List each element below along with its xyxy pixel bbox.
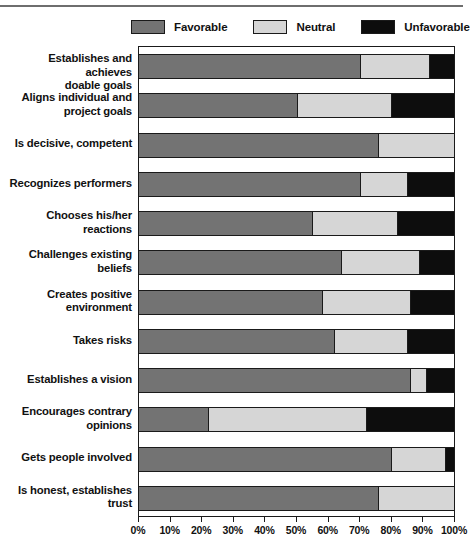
chart-row	[139, 126, 454, 165]
bar-segment-favorable	[139, 173, 360, 196]
category-label: Establishes and achievesdoable goals	[0, 52, 132, 93]
x-axis-tick	[233, 517, 234, 522]
bar-segment-favorable	[139, 408, 208, 431]
x-axis-tick-label: 20%	[191, 524, 211, 536]
chart-row	[139, 283, 454, 322]
x-axis-tick-label: 70%	[349, 524, 369, 536]
category-label-line: opinions	[0, 419, 132, 433]
category-label-line: Gets people involved	[0, 451, 132, 465]
category-label-line: Takes risks	[0, 334, 132, 348]
x-axis-tick-label: 100%	[441, 524, 467, 536]
bar-segment-favorable	[139, 330, 334, 353]
stacked-bar	[139, 290, 454, 315]
bar-segment-neutral	[297, 94, 392, 117]
bar-segment-favorable	[139, 94, 297, 117]
category-label-line: Is decisive, competent	[0, 137, 132, 151]
chart-row	[139, 400, 454, 439]
bar-segment-neutral	[341, 251, 420, 274]
category-label-line: reactions	[0, 223, 132, 237]
chart-row	[139, 440, 454, 479]
category-label-line: Aligns individual and	[0, 91, 132, 105]
chart-row	[139, 47, 454, 86]
bar-segment-neutral	[360, 173, 407, 196]
legend-swatch-favorable-icon	[131, 20, 165, 34]
x-axis-tick-label: 0%	[131, 524, 146, 536]
category-label-line: trust	[0, 497, 132, 511]
bar-segment-favorable	[139, 55, 360, 78]
bar-segment-neutral	[312, 212, 397, 235]
category-label-line: beliefs	[0, 262, 132, 276]
legend-item-favorable: Favorable	[131, 20, 227, 34]
chart-row	[139, 243, 454, 282]
x-axis-tick	[359, 517, 360, 522]
bar-segment-favorable	[139, 134, 378, 157]
x-axis-tick	[328, 517, 329, 522]
stacked-bar	[139, 329, 454, 354]
bar-segment-unfavorable	[410, 291, 454, 314]
category-label: Gets people involved	[0, 451, 132, 465]
legend-label-favorable: Favorable	[174, 21, 227, 33]
chart-row	[139, 165, 454, 204]
bar-segment-neutral	[378, 487, 454, 510]
bar-segment-neutral	[208, 408, 366, 431]
x-axis-ticks	[138, 517, 455, 522]
stacked-bar	[139, 133, 454, 158]
category-label: Challenges existingbeliefs	[0, 248, 132, 275]
legend-label-unfavorable: Unfavorable	[404, 21, 469, 33]
bar-segment-unfavorable	[407, 173, 454, 196]
x-axis-tick	[454, 517, 455, 522]
bar-segment-unfavorable	[419, 251, 454, 274]
stacked-bar	[139, 368, 454, 393]
category-label: Creates positiveenvironment	[0, 288, 132, 315]
stacked-bar	[139, 486, 454, 511]
stacked-bar	[139, 172, 454, 197]
stacked-bar	[139, 93, 454, 118]
x-axis-tick-label: 60%	[317, 524, 337, 536]
bar-segment-favorable	[139, 212, 312, 235]
bar-segment-neutral	[334, 330, 406, 353]
category-label-line: Chooses his/her	[0, 209, 132, 223]
bar-segment-favorable	[139, 487, 378, 510]
category-label: Is decisive, competent	[0, 137, 132, 151]
bar-segment-unfavorable	[391, 94, 454, 117]
bar-segment-neutral	[391, 448, 445, 471]
bar-segment-unfavorable	[426, 369, 454, 392]
x-axis-tick-label: 80%	[381, 524, 401, 536]
x-axis-tick-label: 50%	[286, 524, 306, 536]
stacked-bar	[139, 54, 454, 79]
x-axis-tick-label: 90%	[412, 524, 432, 536]
category-label-line: Encourages contrary	[0, 405, 132, 419]
legend-item-unfavorable: Unfavorable	[361, 20, 469, 34]
bar-segment-neutral	[378, 134, 454, 157]
category-label: Encourages contraryopinions	[0, 405, 132, 432]
stacked-bar	[139, 447, 454, 472]
chart-row	[139, 86, 454, 125]
category-label-line: Is honest, establishes	[0, 484, 132, 498]
top-divider	[0, 5, 463, 7]
bar-segment-favorable	[139, 448, 391, 471]
bar-segment-unfavorable	[407, 330, 454, 353]
legend-swatch-unfavorable-icon	[361, 20, 395, 34]
x-axis-tick	[201, 517, 202, 522]
legend-swatch-neutral-icon	[253, 20, 287, 34]
bar-segment-neutral	[360, 55, 429, 78]
stacked-bar	[139, 211, 454, 236]
category-label-line: environment	[0, 301, 132, 315]
category-label: Establishes a vision	[0, 373, 132, 387]
category-label-line: Establishes and achieves	[0, 52, 132, 79]
legend-item-neutral: Neutral	[253, 20, 335, 34]
x-axis-tick	[422, 517, 423, 522]
chart-row	[139, 322, 454, 361]
category-label-line: Recognizes performers	[0, 177, 132, 191]
x-axis-tick	[391, 517, 392, 522]
x-axis-tick-label: 10%	[159, 524, 179, 536]
category-label: Recognizes performers	[0, 177, 132, 191]
bar-segment-unfavorable	[445, 448, 454, 471]
category-label: Takes risks	[0, 334, 132, 348]
category-label-line: Creates positive	[0, 288, 132, 302]
stacked-bar	[139, 250, 454, 275]
category-label: Chooses his/herreactions	[0, 209, 132, 236]
legend-label-neutral: Neutral	[296, 21, 335, 33]
x-axis-tick	[138, 517, 139, 522]
x-axis-tick-label: 30%	[223, 524, 243, 536]
